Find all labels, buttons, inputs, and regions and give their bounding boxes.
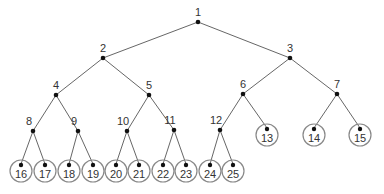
node-label: 11 [164, 114, 175, 126]
tree-edge [56, 58, 103, 95]
node-dot-icon [19, 163, 23, 167]
node-dot-icon [335, 92, 340, 97]
node-label: 24 [204, 168, 216, 180]
node-dot-icon [312, 127, 316, 131]
node-dot-icon [43, 163, 47, 167]
tree-edge [33, 131, 45, 164]
tree-edge [210, 130, 220, 164]
node-label: 19 [87, 168, 99, 180]
node-label: 9 [71, 115, 77, 127]
node-label: 6 [240, 78, 246, 90]
tree-node-2: 2 [100, 42, 106, 60]
tree-edge [337, 94, 360, 128]
node-dot-icon [196, 20, 201, 25]
node-dot-icon [76, 129, 81, 134]
node-label: 5 [146, 79, 152, 91]
node-label: 15 [354, 132, 366, 144]
node-label: 14 [308, 132, 320, 144]
tree-node-13: 13 [256, 124, 278, 146]
binary-tree-diagram: 1234567891011121314151617181920212223242… [0, 0, 384, 194]
node-dot-icon [231, 163, 235, 167]
tree-node-11: 11 [164, 114, 176, 132]
tree-node-20: 20 [105, 160, 127, 182]
tree-node-7: 7 [334, 78, 340, 96]
tree-edge [198, 22, 290, 58]
tree-edge [103, 58, 149, 95]
node-dot-icon [137, 163, 141, 167]
node-dot-icon [288, 56, 293, 61]
tree-node-17: 17 [34, 160, 56, 182]
node-label: 25 [227, 168, 239, 180]
tree-node-16: 16 [10, 160, 32, 182]
node-dot-icon [67, 163, 71, 167]
tree-node-21: 21 [128, 160, 150, 182]
node-dot-icon [101, 56, 106, 61]
tree-node-12: 12 [210, 114, 222, 132]
tree-node-15: 15 [349, 124, 371, 146]
tree-node-8: 8 [26, 115, 35, 133]
tree-node-9: 9 [71, 115, 80, 133]
tree-node-4: 4 [53, 79, 59, 97]
node-label: 18 [63, 168, 75, 180]
tree-edge [127, 131, 139, 164]
tree-edge [174, 130, 186, 164]
tree-node-25: 25 [222, 160, 244, 182]
tree-edge [314, 94, 337, 128]
tree-node-14: 14 [303, 124, 325, 146]
tree-edge [290, 58, 337, 94]
node-dot-icon [241, 92, 246, 97]
node-dot-icon [172, 128, 177, 133]
node-dot-icon [184, 163, 188, 167]
tree-edge [243, 94, 267, 128]
node-label: 10 [117, 115, 129, 127]
node-label: 4 [53, 79, 59, 91]
tree-edge [33, 95, 56, 131]
tree-node-6: 6 [240, 78, 246, 96]
node-dot-icon [54, 93, 59, 98]
node-label: 16 [15, 168, 27, 180]
tree-node-19: 19 [82, 160, 104, 182]
node-label: 20 [110, 168, 122, 180]
node-label: 1 [195, 6, 201, 18]
tree-edge [163, 130, 174, 164]
node-label: 21 [133, 168, 145, 180]
node-label: 7 [334, 78, 340, 90]
node-dot-icon [147, 93, 152, 98]
node-dot-icon [125, 129, 130, 134]
tree-node-1: 1 [195, 6, 201, 24]
node-dot-icon [218, 128, 223, 133]
tree-edge [69, 131, 78, 164]
node-dot-icon [31, 129, 36, 134]
node-dot-icon [114, 163, 118, 167]
tree-edge [21, 131, 33, 164]
node-dot-icon [91, 163, 95, 167]
tree-edge [116, 131, 127, 164]
tree-node-23: 23 [175, 160, 197, 182]
tree-node-24: 24 [199, 160, 221, 182]
tree-edge [220, 94, 243, 130]
node-label: 17 [39, 168, 51, 180]
tree-node-22: 22 [152, 160, 174, 182]
tree-node-10: 10 [117, 115, 129, 133]
node-label: 2 [100, 42, 106, 54]
tree-edge [103, 22, 198, 58]
tree-node-18: 18 [58, 160, 80, 182]
tree-edge [127, 95, 149, 131]
tree-edge [78, 131, 93, 164]
node-label: 23 [180, 168, 192, 180]
tree-edge [220, 130, 233, 164]
node-dot-icon [208, 163, 212, 167]
node-label: 22 [157, 168, 169, 180]
tree-node-5: 5 [146, 79, 152, 97]
tree-node-3: 3 [287, 42, 293, 60]
node-dot-icon [265, 127, 269, 131]
node-label: 3 [287, 42, 293, 54]
node-label: 8 [26, 115, 32, 127]
tree-edge [243, 58, 290, 94]
node-dot-icon [161, 163, 165, 167]
node-dot-icon [358, 127, 362, 131]
node-label: 13 [261, 132, 273, 144]
tree-nodes: 1234567891011121314151617181920212223242… [10, 6, 371, 182]
node-label: 12 [210, 114, 222, 126]
